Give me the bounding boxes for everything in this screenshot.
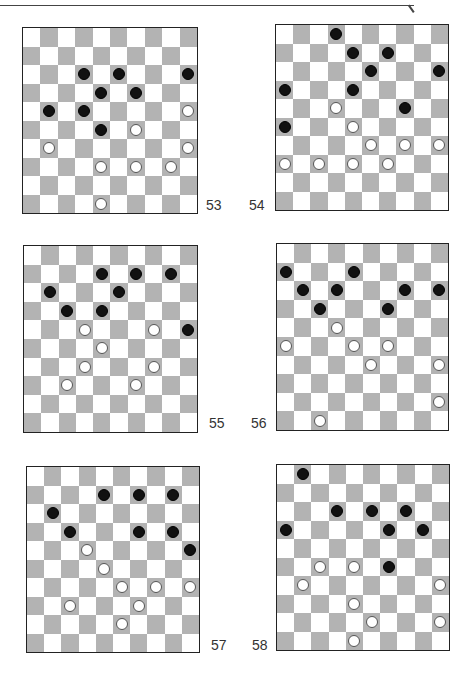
- white-piece: [130, 379, 142, 391]
- light-square: [145, 84, 162, 103]
- dark-square: [75, 28, 92, 47]
- light-square: [130, 504, 147, 523]
- dark-square: [24, 376, 41, 395]
- dark-square: [127, 121, 144, 140]
- black-piece: [280, 266, 292, 278]
- black-piece: [297, 284, 309, 296]
- light-square: [79, 486, 96, 505]
- light-square: [311, 244, 328, 263]
- light-square: [75, 121, 92, 140]
- dark-square: [397, 244, 414, 263]
- dark-square: [277, 411, 294, 430]
- dark-square: [165, 486, 182, 505]
- dark-square: [276, 192, 293, 211]
- dark-square: [180, 28, 197, 47]
- dark-square: [414, 300, 431, 319]
- dark-square: [23, 121, 40, 140]
- dark-square: [59, 265, 76, 284]
- dark-square: [147, 541, 164, 560]
- light-square: [345, 99, 362, 118]
- light-square: [294, 374, 311, 393]
- light-square: [162, 65, 179, 84]
- white-piece: [150, 581, 162, 593]
- light-square: [328, 81, 345, 100]
- light-square: [110, 84, 127, 103]
- dark-square: [311, 337, 328, 356]
- light-square: [182, 634, 199, 653]
- dark-square: [96, 634, 113, 653]
- dark-square: [293, 62, 310, 81]
- white-piece: [314, 415, 326, 427]
- dark-square: [145, 176, 162, 195]
- light-square: [110, 302, 127, 321]
- dark-square: [363, 281, 380, 300]
- light-square: [397, 337, 414, 356]
- light-square: [379, 62, 396, 81]
- light-square: [294, 300, 311, 319]
- diagram-number-53: 53: [206, 197, 222, 213]
- light-square: [182, 597, 199, 616]
- light-square: [93, 102, 110, 121]
- light-square: [414, 173, 431, 192]
- dark-square: [294, 502, 311, 521]
- black-piece: [400, 505, 412, 517]
- dark-square: [311, 263, 328, 282]
- light-square: [128, 283, 145, 302]
- light-square: [294, 484, 311, 503]
- dark-square: [362, 62, 379, 81]
- dark-square: [414, 118, 431, 137]
- black-piece: [182, 324, 194, 336]
- light-square: [130, 615, 147, 634]
- dark-square: [293, 136, 310, 155]
- dark-square: [276, 118, 293, 137]
- light-square: [180, 84, 197, 103]
- light-square: [110, 265, 127, 284]
- light-square: [182, 486, 199, 505]
- light-square: [180, 302, 197, 321]
- light-square: [414, 318, 431, 337]
- light-square: [23, 139, 40, 158]
- light-square: [310, 99, 327, 118]
- light-square: [396, 81, 413, 100]
- light-square: [93, 28, 110, 47]
- light-square: [328, 300, 345, 319]
- dark-square: [93, 265, 110, 284]
- dark-square: [113, 615, 130, 634]
- white-piece: [434, 579, 446, 591]
- dark-square: [310, 118, 327, 137]
- dark-square: [397, 539, 414, 558]
- dark-square: [396, 136, 413, 155]
- dark-square: [397, 356, 414, 375]
- black-piece: [182, 68, 194, 80]
- dark-square: [27, 523, 44, 542]
- light-square: [294, 632, 311, 651]
- light-square: [379, 99, 396, 118]
- light-square: [79, 597, 96, 616]
- dark-square: [127, 84, 144, 103]
- white-piece: [148, 361, 160, 373]
- white-piece: [347, 121, 359, 133]
- light-square: [362, 81, 379, 100]
- white-piece: [433, 359, 445, 371]
- dark-square: [329, 613, 346, 632]
- light-square: [162, 139, 179, 158]
- dark-square: [41, 283, 58, 302]
- dark-square: [23, 47, 40, 66]
- diagram-number-54: 54: [249, 197, 265, 213]
- light-square: [44, 634, 61, 653]
- light-square: [24, 283, 41, 302]
- checkers-board-56: [276, 243, 449, 431]
- light-square: [75, 47, 92, 66]
- light-square: [41, 302, 58, 321]
- dark-square: [40, 102, 57, 121]
- dark-square: [24, 339, 41, 358]
- dark-square: [59, 302, 76, 321]
- dark-square: [294, 356, 311, 375]
- white-piece: [433, 139, 445, 151]
- black-piece: [331, 505, 343, 517]
- light-square: [145, 121, 162, 140]
- light-square: [93, 283, 110, 302]
- light-square: [396, 192, 413, 211]
- dark-square: [147, 615, 164, 634]
- dark-square: [75, 176, 92, 195]
